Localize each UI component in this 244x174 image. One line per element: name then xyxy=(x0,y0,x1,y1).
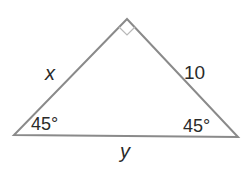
right-angle-label: 45° xyxy=(183,116,210,136)
triangle-diagram: x 10 45° 45° y xyxy=(0,0,244,174)
left-angle-label: 45° xyxy=(31,114,58,134)
left-leg-label: x xyxy=(44,62,56,84)
right-angle-marker xyxy=(119,27,135,35)
hypotenuse-label: y xyxy=(118,140,131,162)
right-leg-label: 10 xyxy=(184,62,205,83)
